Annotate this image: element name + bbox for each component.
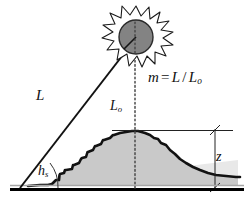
equation-operator: = [161,69,170,85]
air-mass-diagram: L Lo hs z m=L/Lo [0,0,246,207]
diagram-canvas [0,0,246,207]
solar-elevation-label-base: h [38,163,45,178]
zenith-path-label: Lo [110,99,122,113]
solar-elevation-label: hs [38,164,48,178]
equation-divider: / [182,69,186,85]
equation-lhs: m [148,69,159,85]
slant-path-label: L [36,88,44,103]
solar-elevation-label-subscript: s [45,169,48,179]
equation-denominator-subscript: o [197,76,202,86]
zenith-path-label-subscript: o [118,104,122,114]
air-mass-equation: m=L/Lo [148,70,202,85]
equation-denominator-base: L [189,69,198,85]
zenith-path-label-base: L [110,98,118,113]
equation-numerator: L [172,69,181,85]
height-label: z [216,150,221,164]
